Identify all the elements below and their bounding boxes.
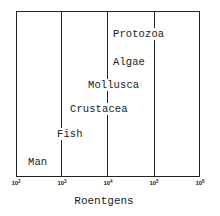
x-tick-base: 10 bbox=[195, 180, 202, 186]
x-axis-title: Roentgens bbox=[0, 195, 220, 207]
x-tick-exponent: 5 bbox=[156, 179, 159, 184]
x-tick-base: 10 bbox=[57, 180, 64, 186]
gridline-10-3 bbox=[61, 11, 62, 177]
organism-label-algae: Algae bbox=[112, 56, 146, 68]
x-tick-label: 106 bbox=[195, 179, 204, 186]
organism-label-man: Man bbox=[27, 156, 48, 168]
x-tick-label: 104 bbox=[103, 179, 112, 186]
organism-label-protozoa: Protozoa bbox=[112, 28, 165, 40]
x-axis-title-text: Roentgens bbox=[74, 195, 133, 207]
x-tick-exponent: 2 bbox=[18, 179, 21, 184]
x-tick-label: 105 bbox=[149, 179, 158, 186]
organism-label-crustacea: Crustacea bbox=[69, 103, 129, 115]
x-tick-label: 102 bbox=[11, 179, 20, 186]
x-tick-base: 10 bbox=[103, 180, 110, 186]
x-tick-exponent: 4 bbox=[110, 179, 113, 184]
x-tick-base: 10 bbox=[11, 180, 18, 186]
gridline-10-4 bbox=[107, 11, 108, 177]
organism-label-fish: Fish bbox=[56, 128, 84, 140]
x-tick-exponent: 3 bbox=[64, 179, 67, 184]
organism-label-mollusca: Mollusca bbox=[87, 79, 140, 91]
x-tick-exponent: 6 bbox=[202, 179, 205, 184]
x-tick-label: 103 bbox=[57, 179, 66, 186]
x-tick-base: 10 bbox=[149, 180, 156, 186]
chart-frame bbox=[16, 11, 200, 177]
